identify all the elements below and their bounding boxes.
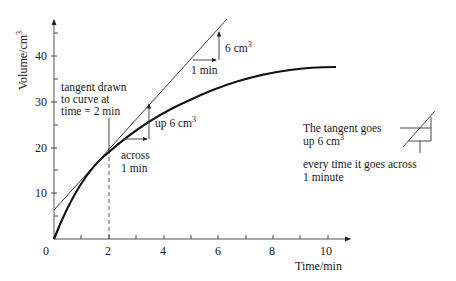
x-ticks bbox=[81, 235, 328, 239]
across-label: across bbox=[121, 149, 150, 161]
y-tick-label-10: 10 bbox=[35, 186, 47, 200]
x-tick-label-10: 10 bbox=[320, 244, 332, 258]
y-axis-label: Volume/cm3 bbox=[15, 31, 30, 90]
x-tick-label-6: 6 bbox=[215, 244, 221, 258]
tangent-note-line2: to curve at bbox=[61, 93, 110, 105]
x-tick-label-4: 4 bbox=[160, 244, 166, 258]
volume-time-chart: 0 2 4 6 8 10 10 20 30 40 Volume/cm3 Time… bbox=[0, 0, 456, 281]
x-tick-label-2: 2 bbox=[105, 244, 111, 258]
legend-line2: up 6 cm3 bbox=[303, 133, 344, 148]
y-tick-label-40: 40 bbox=[35, 49, 47, 63]
upper-run-label: 1 min bbox=[191, 64, 218, 76]
across-1min-label: 1 min bbox=[121, 162, 148, 174]
legend-line3: every time it goes across bbox=[303, 158, 417, 171]
legend-line4: 1 minute bbox=[303, 171, 344, 183]
y-tick-label-30: 30 bbox=[35, 95, 47, 109]
tangent-note-line3: time = 2 min bbox=[61, 105, 120, 117]
upper-triangle bbox=[193, 32, 219, 60]
y-tick-label-20: 20 bbox=[35, 141, 47, 155]
upper-rise-label: 6 cm3 bbox=[225, 40, 252, 54]
up-6cm3-label: up 6 cm3 bbox=[155, 115, 196, 130]
axes: 0 2 4 6 8 10 10 20 30 40 Volume/cm3 Time… bbox=[15, 20, 350, 273]
legend-triangle-icon bbox=[400, 111, 435, 153]
legend-explanation: The tangent goes up 6 cm3 every time it … bbox=[303, 111, 435, 183]
x-axis-label: Time/min bbox=[295, 259, 342, 273]
svg-text:Volume/cm3: Volume/cm3 bbox=[15, 31, 30, 90]
origin-label: 0 bbox=[43, 244, 49, 258]
x-tick-label-8: 8 bbox=[269, 244, 275, 258]
